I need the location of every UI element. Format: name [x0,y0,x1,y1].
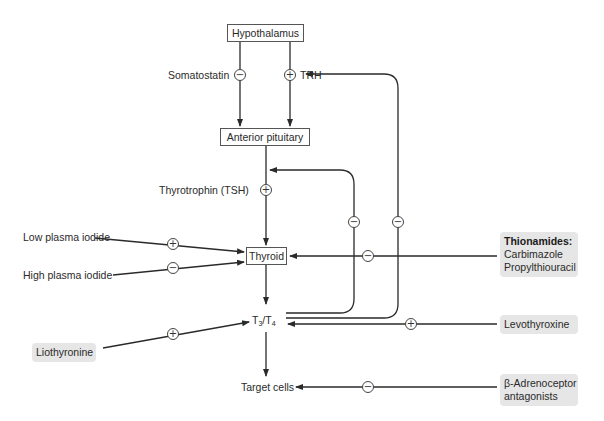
antagonists-label: antagonists [504,390,574,403]
t4-text: /T [262,314,271,326]
minus-icon-somatostatin: − [234,69,246,81]
levothyroxine-box: Levothyroxine [500,315,578,334]
minus-icon-outer-feedback: − [392,216,404,228]
thyroid-label: Thyroid [249,251,284,262]
beta-blocker-box: β-Adrenoceptor antagonists [500,374,578,406]
t4-subscript: 4 [272,320,276,327]
high-iodide-label: High plasma iodide [23,270,112,281]
carbimazole-label: Carbimazole [504,248,574,261]
propylthiouracil-label: Propylthiouracil [504,261,574,274]
liothyronine-label: Liothyronine [36,346,92,359]
liothyronine-box: Liothyronine [32,343,96,362]
minus-icon-high-iodide: − [167,262,179,274]
hypothalamus-node: Hypothalamus [227,24,304,42]
anterior-pituitary-label: Anterior pituitary [227,132,303,143]
minus-icon-beta-blocker: − [362,381,374,393]
plus-icon-tsh: + [260,184,272,196]
plus-icon-low-iodide: + [167,238,179,250]
anterior-pituitary-node: Anterior pituitary [220,128,310,146]
beta-adrenoceptor-label: β-Adrenoceptor [504,377,574,390]
levothyroxine-label: Levothyroxine [504,318,574,331]
low-iodide-label: Low plasma iodide [23,232,110,243]
thionamides-box: Thionamides: Carbimazole Propylthiouraci… [500,232,578,277]
tsh-label: Thyrotrophin (TSH) [159,185,249,196]
thionamides-title: Thionamides: [504,235,574,248]
somatostatin-label: Somatostatin [168,70,229,81]
trh-label: TRH [300,70,322,81]
t3-t4-node: T3/T4 [252,315,276,327]
plus-icon-liothyronine: + [167,328,179,340]
minus-icon-thionamides: − [362,250,374,262]
thyroid-node: Thyroid [246,247,287,265]
hypothalamus-label: Hypothalamus [232,28,299,39]
target-cells-node: Target cells [241,382,294,393]
plus-icon-levothyroxine: + [405,318,417,330]
minus-icon-inner-feedback: − [348,216,360,228]
plus-icon-trh: + [284,69,296,81]
